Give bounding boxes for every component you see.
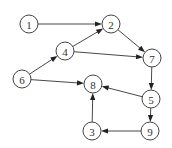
arrowhead-icon: [136, 54, 143, 59]
edge-6-to-8: [31, 80, 84, 86]
edge-7-to-5: [149, 67, 154, 90]
node-label: 1: [26, 19, 32, 31]
arrowhead-icon: [102, 85, 109, 90]
edge-line: [92, 98, 93, 122]
node-6: 6: [13, 70, 31, 88]
arrowhead-icon: [96, 29, 103, 35]
edge-line: [74, 52, 138, 57]
node-label: 5: [148, 94, 154, 106]
edge-line: [30, 59, 54, 74]
edge-line: [73, 31, 99, 46]
node-4: 4: [56, 42, 74, 60]
node-3: 3: [83, 122, 101, 140]
node-label: 3: [89, 126, 95, 138]
edge-line: [31, 80, 79, 83]
node-1: 1: [20, 15, 38, 33]
node-9: 9: [141, 122, 159, 140]
node-label: 6: [19, 74, 25, 86]
arrowhead-icon: [95, 21, 102, 26]
node-label: 8: [90, 79, 96, 91]
node-label: 9: [147, 126, 153, 138]
edge-5-to-9: [148, 108, 153, 122]
arrowhead-icon: [77, 80, 84, 85]
edge-line: [118, 30, 141, 49]
node-5: 5: [142, 90, 160, 108]
node-8: 8: [84, 75, 102, 93]
node-label: 7: [149, 53, 155, 65]
node-label: 4: [62, 46, 68, 58]
edge-line: [107, 88, 143, 97]
edge-2-to-7: [118, 30, 145, 53]
arrowhead-icon: [148, 115, 153, 122]
directed-graph: 123456789: [0, 0, 172, 148]
edge-4-to-7: [74, 52, 143, 60]
arrowhead-icon: [149, 83, 154, 90]
arrowhead-icon: [90, 93, 95, 100]
edge-3-to-8: [90, 93, 95, 122]
arrowhead-icon: [101, 128, 108, 133]
arrowhead-icon: [50, 56, 57, 62]
edge-9-to-3: [101, 128, 141, 133]
node-2: 2: [102, 15, 120, 33]
edge-5-to-8: [102, 85, 143, 96]
nodes-layer: 123456789: [13, 15, 161, 140]
edge-1-to-2: [38, 21, 102, 26]
edge-6-to-4: [30, 56, 58, 74]
edge-4-to-2: [73, 29, 103, 47]
node-label: 2: [108, 19, 114, 31]
node-7: 7: [143, 49, 161, 67]
